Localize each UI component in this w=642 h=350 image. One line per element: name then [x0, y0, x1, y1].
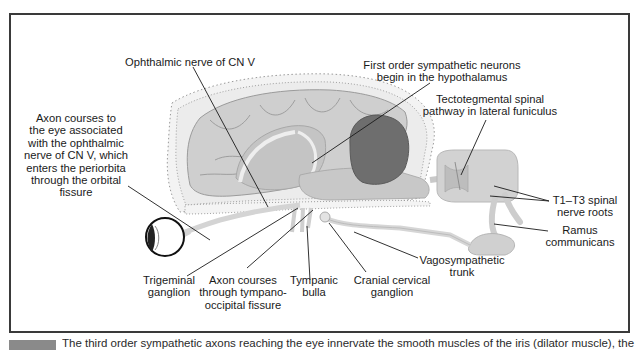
caption-marker — [9, 340, 56, 350]
label-t1-t3-nerve-roots: T1–T3 spinal nerve roots — [545, 194, 625, 219]
label-tectotegmental: Tectotegmental spinal pathway in lateral… — [420, 93, 560, 118]
vagosympathetic-trunk-shape — [325, 218, 470, 245]
eye-shape — [146, 218, 184, 256]
figure-caption: The third order sympathetic axons reachi… — [62, 336, 642, 350]
label-trigeminal-ganglion: Trigeminal ganglion — [136, 274, 202, 299]
label-ramus-communicans: Ramus communicans — [530, 224, 630, 249]
label-ophthalmic-nerve: Ophthalmic nerve of CN V — [120, 56, 260, 68]
label-tympanic-bulla: Tympanic bulla — [284, 274, 344, 299]
cranial-cervical-ganglion-shape — [320, 212, 330, 222]
spinal-cord-segment — [430, 150, 520, 255]
label-axon-to-eye: Axon courses to the eye associated with … — [12, 112, 140, 199]
label-tympano-occipital-fissure: Axon courses through tympano- occipital … — [198, 274, 288, 311]
label-first-order-neurons: First order sympathetic neurons begin in… — [362, 59, 522, 84]
cerebellum — [350, 115, 409, 184]
label-cranial-cervical-ganglion: Cranial cervical ganglion — [344, 274, 440, 299]
